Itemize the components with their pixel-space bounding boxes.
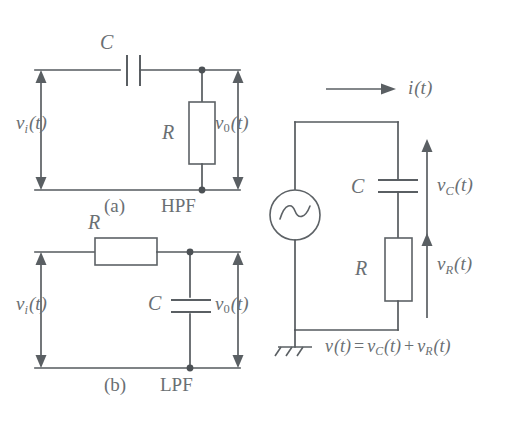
lpf-resistor-label: R	[88, 212, 100, 232]
hpf-caption-index: (a)	[104, 196, 125, 215]
kvl-equation: v(t)=vC(t)+vR(t)	[325, 337, 451, 358]
capacitor-voltage-subscript: C	[445, 184, 453, 198]
resistor-voltage-subscript: R	[445, 263, 453, 277]
lpf-capacitor-label: C	[148, 293, 161, 313]
lpf-node-top	[187, 249, 194, 256]
hpf-resistor-label: R	[162, 122, 174, 142]
ac-source-circle	[270, 190, 320, 240]
lpf-circuit-group	[35, 238, 244, 371]
hpf-input-voltage-arg: (t)	[28, 112, 47, 133]
hpf-node-top	[199, 67, 206, 74]
capacitor-voltage-arrow	[422, 139, 433, 239]
current-direction-arrow	[326, 84, 396, 95]
hpf-output-voltage-label: v0(t)	[215, 113, 249, 135]
lpf-output-voltage-label: v0(t)	[215, 294, 249, 316]
lpf-resistor-body	[95, 238, 157, 265]
series-resistor-label: R	[355, 258, 367, 278]
capacitor-voltage-arg: (t)	[454, 174, 473, 195]
kvl-term1-symbol: v	[367, 336, 375, 356]
lpf-input-voltage-label: vi(t)	[16, 294, 47, 316]
hpf-resistor-body	[189, 102, 215, 164]
kvl-lhs-arg: (t)	[333, 336, 351, 356]
hpf-input-voltage-label: vi(t)	[16, 113, 47, 135]
hpf-node-bottom	[199, 187, 206, 194]
earth-ground-symbol	[275, 347, 312, 356]
capacitor-voltage-label: vC(t)	[437, 175, 473, 197]
hpf-circuit-group	[35, 55, 244, 193]
series-capacitor-label: C	[351, 176, 364, 196]
current-label: i(t)	[408, 78, 432, 97]
current-arg: (t)	[413, 77, 432, 98]
kvl-term1-subscript: C	[375, 344, 383, 358]
hpf-output-voltage-subscript: 0	[223, 121, 229, 135]
kvl-equals: =	[351, 336, 367, 356]
hpf-capacitor-label: C	[100, 32, 113, 52]
lpf-input-voltage-arg: (t)	[28, 293, 47, 314]
kvl-term2-subscript: R	[425, 344, 432, 358]
kvl-lhs-symbol: v	[325, 336, 333, 356]
lpf-output-voltage-subscript: 0	[223, 302, 229, 316]
kvl-term2-arg: (t)	[433, 336, 451, 356]
lpf-output-voltage-arg: (t)	[230, 293, 249, 314]
kvl-term1-arg: (t)	[383, 336, 401, 356]
resistor-voltage-arg: (t)	[453, 253, 472, 274]
hpf-output-voltage-arg: (t)	[230, 112, 249, 133]
circuit-figure: C R vi(t) v0(t) (a) HPF R C vi(t) v0(t) …	[0, 0, 513, 421]
series-rc-circuit-group	[270, 84, 433, 357]
hpf-caption-name: HPF	[161, 196, 196, 215]
lpf-caption-name: LPF	[160, 375, 193, 394]
resistor-voltage-arrow	[422, 233, 433, 318]
resistor-voltage-label: vR(t)	[437, 254, 472, 276]
lpf-caption-index: (b)	[104, 375, 126, 394]
series-resistor-body	[385, 238, 412, 301]
kvl-plus: +	[401, 336, 417, 356]
lpf-node-bottom	[187, 365, 194, 372]
